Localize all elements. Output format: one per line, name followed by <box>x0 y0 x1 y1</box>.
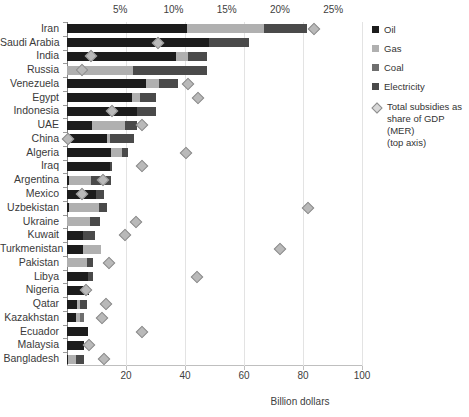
category-tick-mark <box>63 215 67 216</box>
legend-swatch-items: OilGasCoalElectricity <box>372 24 468 94</box>
bar-segment-elec <box>110 134 134 143</box>
legend-item-gas: Gas <box>372 43 468 55</box>
legend-item-label: Gas <box>384 43 401 55</box>
category-tick-mark <box>63 270 67 271</box>
bar-segment-oil <box>67 148 111 157</box>
top-axis-tick-label: 5% <box>113 4 127 15</box>
bar-row <box>67 148 362 157</box>
bar-segment-gas <box>69 203 99 212</box>
bar-segment-oil <box>67 300 77 309</box>
category-label-argentina: Argentina <box>0 173 59 185</box>
bar-row <box>67 327 362 336</box>
category-label-qatar: Qatar <box>0 297 59 309</box>
bar-segment-elec <box>83 231 95 240</box>
category-label-nigeria: Nigeria <box>0 283 59 295</box>
bar-segment-elec <box>96 190 104 199</box>
category-label-venezuela: Venezuela <box>0 77 59 89</box>
bar-row <box>67 245 362 254</box>
category-tick-mark <box>63 118 67 119</box>
bar-row <box>67 38 362 47</box>
bar-row <box>67 121 362 130</box>
bar-segment-oil <box>67 327 88 336</box>
bar-segment-oil <box>67 38 209 47</box>
category-tick-mark <box>63 297 67 298</box>
bar-segment-gas <box>92 121 125 130</box>
bar-row <box>67 162 362 171</box>
bar-segment-gas <box>68 355 76 364</box>
bar-segment-gas <box>69 176 91 185</box>
bar-segment-gas <box>187 24 264 33</box>
bar-segment-coal <box>80 313 84 322</box>
legend-item-label: Total subsidies as share of GDP (MER) (t… <box>387 101 468 150</box>
category-label-egypt: Egypt <box>0 91 59 103</box>
category-label-ukraine: Ukraine <box>0 215 59 227</box>
category-axis-labels: IranSaudi ArabiaIndiaRussiaVenezuelaEgyp… <box>0 22 63 366</box>
category-tick-mark <box>63 63 67 64</box>
legend-item-total-subsidies: Total subsidies as share of GDP (MER) (t… <box>372 101 468 150</box>
category-tick-mark <box>63 201 67 202</box>
top-axis-tick-label: 25% <box>323 4 343 15</box>
legend-line-3: (top axis) <box>387 137 468 149</box>
diamond-marker-icon <box>371 102 382 113</box>
category-tick-mark <box>63 283 67 284</box>
oil-swatch-icon <box>372 26 379 33</box>
bar-row <box>67 93 362 102</box>
category-tick-mark <box>63 352 67 353</box>
bar-segment-elec <box>88 272 93 281</box>
bar-segment-elec <box>209 38 249 47</box>
bar-segment-oil <box>67 79 146 88</box>
elec-swatch-icon <box>372 83 379 90</box>
category-tick-mark <box>63 311 67 312</box>
legend-item-label: Oil <box>384 24 396 36</box>
legend-item-coal: Coal <box>372 62 468 74</box>
bar-segment-elec <box>90 217 100 226</box>
category-label-india: India <box>0 49 59 61</box>
category-label-ecuador: Ecuador <box>0 325 59 337</box>
bar-segment-oil <box>67 245 83 254</box>
category-tick-mark <box>63 36 67 37</box>
category-label-algeria: Algeria <box>0 146 59 158</box>
category-label-indonesia: Indonesia <box>0 104 59 116</box>
coal-swatch-icon <box>372 64 379 71</box>
bar-segment-oil <box>67 162 110 171</box>
bar-segment-oil <box>67 107 137 116</box>
category-label-kuwait: Kuwait <box>0 228 59 240</box>
bar-row <box>67 190 362 199</box>
bar-row <box>67 203 362 212</box>
bottom-axis-line <box>67 365 362 366</box>
bar-row <box>67 217 362 226</box>
bar-segment-oil <box>67 231 83 240</box>
bar-segment-oil <box>67 272 88 281</box>
category-label-uae: UAE <box>0 118 59 130</box>
gas-swatch-icon <box>372 45 379 52</box>
bar-segment-elec <box>87 258 93 267</box>
bottom-axis-tick-label: 80 <box>297 370 308 381</box>
chart-legend: OilGasCoalElectricity Total subsidies as… <box>372 24 468 156</box>
bar-segment-gas <box>111 148 122 157</box>
legend-item-elec: Electricity <box>372 81 468 93</box>
bottom-axis-tick-label: 60 <box>238 370 249 381</box>
bar-segment-oil <box>67 93 132 102</box>
legend-item-oil: Oil <box>372 24 468 36</box>
bar-segment-elec <box>140 93 156 102</box>
top-axis-tick-label: 15% <box>217 4 237 15</box>
bar-row <box>67 286 362 295</box>
bar-row <box>67 272 362 281</box>
bottom-axis-tick-label: 40 <box>179 370 190 381</box>
category-label-saudi-arabia: Saudi Arabia <box>0 36 59 48</box>
bar-segment-oil <box>67 121 92 130</box>
bar-row <box>67 176 362 185</box>
x-axis-title: Billion dollars <box>271 396 330 407</box>
bar-segment-elec <box>99 203 107 212</box>
category-label-pakistan: Pakistan <box>0 256 59 268</box>
category-tick-mark <box>63 91 67 92</box>
category-label-malaysia: Malaysia <box>0 338 59 350</box>
gridline <box>362 22 363 366</box>
bar-segment-oil <box>67 24 187 33</box>
bottom-axis-tick-label: 20 <box>120 370 131 381</box>
bar-segment-gas <box>67 258 87 267</box>
bar-segment-gas <box>83 245 101 254</box>
category-label-turkmenistan: Turkmenistan <box>0 242 59 254</box>
bottom-axis-tick-label: 100 <box>354 370 371 381</box>
category-tick-mark <box>63 50 67 51</box>
